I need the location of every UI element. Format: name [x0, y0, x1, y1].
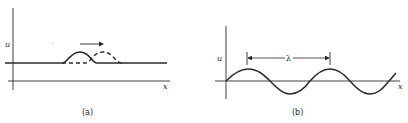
panel-a-caption: (a) [82, 108, 93, 117]
panel-b-x-axis-label: x [398, 82, 403, 91]
panel-b-y-axis-label: u [217, 54, 222, 63]
panel-b-sine-wave [226, 69, 396, 94]
panel-a-pulse-later [62, 52, 122, 63]
panel-a: u x (a) [5, 8, 170, 117]
panel-b: u x λ (b) [215, 26, 403, 117]
panel-a-speck [53, 43, 54, 44]
wave-diagram-figure: u x (a) u x [0, 0, 408, 123]
panel-a-y-axis-label: u [5, 40, 10, 49]
panel-a-x-axis-label: x [163, 82, 168, 91]
panel-b-caption: (b) [292, 108, 303, 117]
panel-b-wavelength-label: λ [286, 54, 291, 63]
